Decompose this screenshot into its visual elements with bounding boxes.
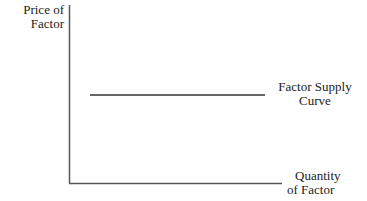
- x-axis-label-line-2: of Factor: [287, 183, 341, 197]
- supply-curve-label-line-1: Factor Supply: [269, 80, 361, 94]
- supply-curve-label: Factor Supply Curve: [269, 80, 361, 108]
- supply-curve-label-line-2: Curve: [269, 94, 361, 108]
- y-axis-label: Price of Factor: [14, 3, 64, 31]
- x-axis-label-line-1: Quantity: [287, 169, 341, 183]
- y-axis-label-line-1: Price of: [14, 3, 64, 17]
- x-axis-label: Quantity of Factor: [287, 169, 341, 197]
- y-axis-label-line-2: Factor: [14, 17, 64, 31]
